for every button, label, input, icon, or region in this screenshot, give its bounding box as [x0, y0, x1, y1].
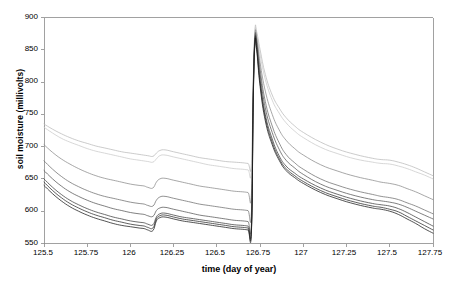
series-line-sensor-2	[44, 27, 433, 179]
series-line-sensor-7	[44, 37, 433, 241]
data-series-layer	[44, 25, 433, 243]
series-line-sensor-3	[44, 30, 433, 204]
series-line-sensor-1	[44, 25, 433, 176]
series-line-sensor-8	[44, 38, 433, 243]
chart-figure: soil moisture (millivolts) 900 850 800 7…	[0, 0, 458, 289]
plot-area	[0, 0, 458, 289]
series-line-sensor-4	[44, 32, 433, 222]
